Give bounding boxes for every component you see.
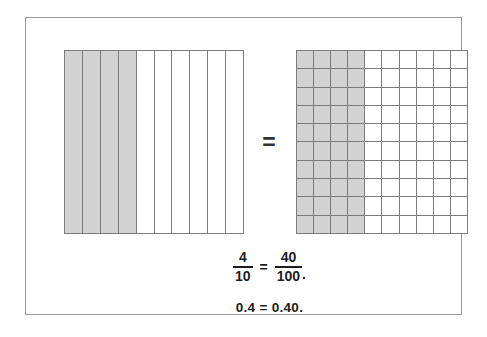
- hundredths-grid-cell: [451, 124, 467, 141]
- hundredths-grid-cell: [417, 142, 434, 159]
- hundredths-grid-cell: [314, 179, 331, 196]
- hundredths-grid-cell: [348, 51, 365, 68]
- hundredths-grid-row: [297, 179, 467, 197]
- hundredths-grid-cell: [365, 142, 382, 159]
- hundredths-grid-cell: [434, 179, 451, 196]
- hundredths-grid-cell: [434, 161, 451, 178]
- hundredths-grid-row: [297, 197, 467, 215]
- hundredths-grid-cell: [382, 106, 399, 123]
- hundredths-grid-cell: [417, 88, 434, 105]
- hundredths-grid-cell: [331, 106, 348, 123]
- hundredths-grid-cell: [297, 161, 314, 178]
- hundredths-grid-cell: [297, 88, 314, 105]
- hundredths-grid-cell: [434, 106, 451, 123]
- hundredths-grid-cell: [417, 69, 434, 86]
- tenths-strip-3: [101, 51, 119, 233]
- hundredths-grid-row: [297, 124, 467, 142]
- hundredths-grid-cell: [417, 124, 434, 141]
- hundredths-grid-cell: [451, 216, 467, 233]
- models-equals-sign: =: [254, 128, 284, 156]
- hundredths-grid-cell: [382, 88, 399, 105]
- hundredths-grid-cell: [348, 88, 365, 105]
- hundredths-grid-cell: [400, 69, 417, 86]
- hundredths-grid-cell: [314, 106, 331, 123]
- hundredths-grid-cell: [331, 69, 348, 86]
- hundredths-grid-cell: [314, 161, 331, 178]
- hundredths-grid-cell: [348, 197, 365, 214]
- fraction-denominator-right: 100: [275, 268, 302, 284]
- hundredths-grid-cell: [331, 142, 348, 159]
- hundredths-grid-cell: [297, 179, 314, 196]
- fraction-four-tenths: 4 10: [233, 250, 253, 283]
- hundredths-grid-cell: [348, 179, 365, 196]
- hundredths-grid-cell: [365, 51, 382, 68]
- hundredths-grid-cell: [314, 124, 331, 141]
- hundredths-grid-cell: [400, 51, 417, 68]
- tenths-strip-9: [208, 51, 226, 233]
- hundredths-grid-cell: [434, 88, 451, 105]
- hundredths-grid-cell: [365, 124, 382, 141]
- hundredths-grid-cell: [314, 142, 331, 159]
- hundredths-grid-cell: [314, 51, 331, 68]
- tenths-strip-1: [65, 51, 83, 233]
- hundredths-grid-cell: [382, 179, 399, 196]
- fraction-trailing-period: .: [302, 266, 306, 282]
- hundredths-grid-cell: [417, 161, 434, 178]
- hundredths-grid-cell: [314, 197, 331, 214]
- hundredths-grid-cell: [451, 69, 467, 86]
- tenths-strip-10: [226, 51, 243, 233]
- hundredths-grid-cell: [451, 88, 467, 105]
- hundredths-grid-cell: [297, 51, 314, 68]
- hundredths-grid-cell: [400, 197, 417, 214]
- hundredths-grid-cell: [382, 197, 399, 214]
- hundredths-grid-cell: [365, 106, 382, 123]
- hundredths-grid-cell: [365, 69, 382, 86]
- hundredths-grid-cell: [314, 69, 331, 86]
- hundredths-grid-cell: [348, 124, 365, 141]
- hundredths-grid-cell: [331, 88, 348, 105]
- hundredths-grid-model: [296, 50, 468, 234]
- hundredths-grid-cell: [297, 197, 314, 214]
- hundredths-grid-cell: [417, 197, 434, 214]
- fraction-equation: 4 10 = 40 100 .: [51, 250, 487, 283]
- hundredths-grid-cell: [434, 69, 451, 86]
- hundredths-grid-cell: [297, 124, 314, 141]
- hundredths-grid-row: [297, 161, 467, 179]
- fraction-denominator-left: 10: [233, 268, 253, 284]
- hundredths-grid-cell: [365, 179, 382, 196]
- hundredths-grid-cell: [451, 51, 467, 68]
- hundredths-grid-cell: [331, 51, 348, 68]
- hundredths-grid-cell: [417, 106, 434, 123]
- fraction-equals-sign: =: [260, 259, 268, 275]
- hundredths-grid-cell: [331, 124, 348, 141]
- hundredths-grid-cell: [297, 142, 314, 159]
- hundredths-grid-cell: [348, 216, 365, 233]
- fraction-numerator-left: 4: [237, 250, 249, 266]
- fraction-numerator-right: 40: [279, 250, 299, 266]
- fraction-forty-hundredths: 40 100: [275, 250, 302, 283]
- hundredths-grid-cell: [331, 161, 348, 178]
- hundredths-grid-cell: [331, 216, 348, 233]
- hundredths-grid-cell: [382, 124, 399, 141]
- hundredths-grid-cell: [434, 197, 451, 214]
- hundredths-grid-cell: [331, 179, 348, 196]
- tenths-strip-8: [190, 51, 208, 233]
- hundredths-grid-cell: [297, 106, 314, 123]
- hundredths-grid-cell: [417, 51, 434, 68]
- hundredths-grid-cell: [348, 69, 365, 86]
- hundredths-grid-cell: [365, 216, 382, 233]
- hundredths-grid-cell: [348, 161, 365, 178]
- decimal-equation-line: 0.4 = 0.40.: [51, 300, 487, 315]
- hundredths-grid-cell: [400, 216, 417, 233]
- figure-frame-border: = 4 10 = 40 100 . 0.4 = 0.40.: [25, 17, 462, 315]
- hundredths-grid-cell: [314, 88, 331, 105]
- hundredths-grid-cell: [451, 179, 467, 196]
- hundredths-grid-cell: [348, 106, 365, 123]
- hundredths-grid-row: [297, 88, 467, 106]
- tenths-strip-5: [137, 51, 155, 233]
- hundredths-grid-cell: [382, 69, 399, 86]
- hundredths-grid-cell: [382, 216, 399, 233]
- hundredths-grid-cell: [348, 142, 365, 159]
- hundredths-grid-cell: [365, 161, 382, 178]
- hundredths-grid-row: [297, 216, 467, 233]
